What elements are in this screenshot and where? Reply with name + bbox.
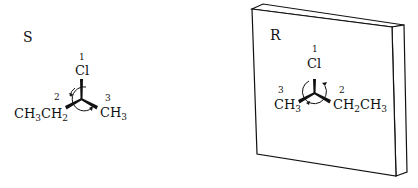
subscript-3: 3	[121, 112, 127, 122]
arrowhead-icon	[89, 106, 93, 111]
diagram-graphics	[0, 0, 418, 188]
ethyl-group-label: CH2CH3	[333, 98, 387, 111]
methyl-group-label: CH3	[274, 98, 301, 111]
ch-text: CH	[100, 105, 121, 120]
subscript-2: 2	[62, 113, 68, 123]
priority-2-label: 2	[339, 86, 345, 95]
priority-2-label: 2	[54, 93, 60, 102]
priority-3-label: 3	[278, 86, 284, 95]
chlorine-label: Cl	[75, 64, 89, 77]
methyl-group-label: CH3	[100, 106, 127, 119]
ethyl-group-label: CH3CH2	[14, 107, 68, 120]
ch-text: CH	[14, 106, 35, 121]
subscript-3: 3	[295, 104, 301, 114]
priority-1-label: 1	[312, 45, 318, 54]
configuration-label-s: S	[23, 30, 33, 44]
configuration-label-r: R	[270, 28, 281, 42]
priority-3-label: 3	[105, 94, 111, 103]
chlorine-label: Cl	[307, 57, 321, 70]
ch-text: CH	[333, 97, 354, 112]
priority-1-label: 1	[79, 53, 85, 62]
subscript-3: 3	[381, 104, 387, 114]
ch-text: CH	[360, 97, 381, 112]
ch-text: CH	[41, 106, 62, 121]
ch-text: CH	[274, 97, 295, 112]
